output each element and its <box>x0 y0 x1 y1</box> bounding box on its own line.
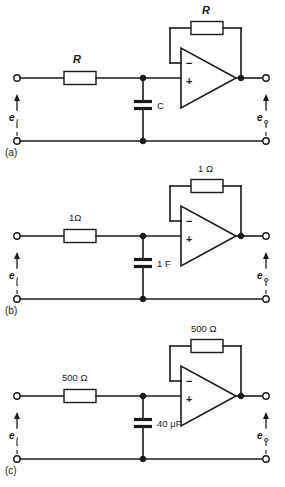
feedback-resistor-body <box>191 340 223 353</box>
output-arrow <box>263 94 269 101</box>
output-terminal-bottom[interactable] <box>263 456 269 462</box>
input-arrow <box>14 412 20 419</box>
output-label: e <box>257 112 263 123</box>
capacitor-label: C <box>157 100 164 111</box>
input-label-subscript: i <box>16 436 19 443</box>
output-label-subscript: o <box>264 276 269 283</box>
circuit-panel-c: − + 500 Ω 500 Ω 40 μF e i e o (c) <box>0 318 285 478</box>
opamp-plus-label: + <box>186 393 192 405</box>
figure-sheet: − + R R C e i e o (a) <box>0 0 285 487</box>
input-label-subscript: i <box>16 276 19 283</box>
capacitor-label: 40 μF <box>157 418 182 429</box>
opamp-minus-label: − <box>186 375 192 387</box>
output-terminal-top[interactable] <box>263 393 269 399</box>
input-label: e <box>9 270 15 281</box>
series-resistor-label: 500 Ω <box>62 372 88 383</box>
input-arrow <box>14 94 20 101</box>
series-resistor-label: 1Ω <box>69 212 81 223</box>
panel-tag-b: (b) <box>5 305 17 316</box>
feedback-resistor-body <box>191 180 223 193</box>
output-arrow <box>263 252 269 259</box>
panel-tag-a: (a) <box>5 147 17 158</box>
output-label-subscript: o <box>264 118 269 125</box>
feedback-resistor-label: R <box>202 4 210 16</box>
input-label: e <box>9 112 15 123</box>
output-terminal-bottom[interactable] <box>263 296 269 302</box>
input-label: e <box>9 430 15 441</box>
series-resistor-body <box>64 390 96 403</box>
opamp-plus-label: + <box>186 75 192 87</box>
input-label-subscript: i <box>16 118 19 125</box>
circuit-panel-a: − + R R C e i e o (a) <box>0 0 285 160</box>
circuit-panel-b: − + 1Ω 1 Ω 1 F e i e o (b) <box>0 158 285 318</box>
output-terminal-bottom[interactable] <box>263 138 269 144</box>
feedback-resistor-body <box>191 22 223 35</box>
opamp-minus-label: − <box>186 215 192 227</box>
output-terminal-top[interactable] <box>263 75 269 81</box>
input-arrow <box>14 252 20 259</box>
opamp-minus-label: − <box>186 57 192 69</box>
output-arrow <box>263 412 269 419</box>
output-junction-node <box>238 75 244 81</box>
feedback-resistor-label: 500 Ω <box>191 323 217 334</box>
series-resistor-label: R <box>73 53 81 65</box>
output-junction-node <box>238 233 244 239</box>
output-label-subscript: o <box>264 436 269 443</box>
panel-tag-c: (c) <box>5 465 17 476</box>
opamp-plus-label: + <box>186 233 192 245</box>
series-resistor-body <box>64 230 96 243</box>
series-resistor-body <box>64 72 96 85</box>
output-terminal-top[interactable] <box>263 233 269 239</box>
output-junction-node <box>238 393 244 399</box>
output-label: e <box>257 270 263 281</box>
feedback-resistor-label: 1 Ω <box>198 163 213 174</box>
output-label: e <box>257 430 263 441</box>
capacitor-label: 1 F <box>157 258 171 269</box>
